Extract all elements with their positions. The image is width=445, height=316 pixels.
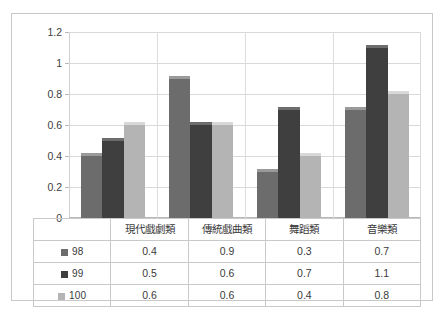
bar-top-face (300, 153, 321, 156)
data-table: 現代戲劇類傳統戲曲類舞蹈類音樂類980.40.90.30.7990.50.60.… (33, 218, 421, 307)
bar-top-face (212, 122, 233, 125)
data-cell-99-1: 0.5 (111, 263, 188, 285)
data-cell-98-2: 0.9 (188, 241, 265, 263)
category-header-4: 音樂類 (343, 219, 420, 241)
data-table-row: 990.50.60.71.1 (34, 263, 421, 285)
bar-group-inner (169, 32, 232, 218)
bar-top-face (345, 107, 366, 110)
data-table-container: 現代戲劇類傳統戲曲類舞蹈類音樂類980.40.90.30.7990.50.60.… (33, 218, 421, 307)
bar-top-face (102, 138, 123, 141)
bar-group-inner (81, 32, 144, 218)
bar-group-inner (345, 32, 408, 218)
bar-98-1[interactable] (81, 156, 102, 218)
category-header-label: 音樂類 (367, 223, 397, 235)
data-cell-99-2: 0.6 (188, 263, 265, 285)
data-cell-98-4: 0.7 (343, 241, 420, 263)
legend-item-98[interactable]: 98 (34, 241, 111, 263)
bar-top-face (169, 76, 190, 79)
bar-top-face (124, 122, 145, 125)
legend-series-label: 99 (72, 268, 84, 279)
category-header-2: 傳統戲曲類 (188, 219, 265, 241)
data-cell-98-1: 0.4 (111, 241, 188, 263)
data-cell-99-4: 1.1 (343, 263, 420, 285)
bar-top-face (81, 153, 102, 156)
y-axis-tick-label: 0.6 (47, 120, 62, 131)
bar-100-4[interactable] (388, 94, 409, 218)
data-table-header-row: 現代戲劇類傳統戲曲類舞蹈類音樂類 (34, 219, 421, 241)
category-header-1: 現代戲劇類 (111, 219, 188, 241)
category-header-3: 舞蹈類 (266, 219, 343, 241)
bars-layer (69, 32, 421, 218)
bar-group-1 (69, 32, 157, 218)
bar-99-4[interactable] (366, 48, 387, 219)
category-separator (157, 32, 158, 218)
bar-100-2[interactable] (212, 125, 233, 218)
bar-top-face (366, 45, 387, 48)
data-cell-100-4: 0.8 (343, 285, 420, 307)
data-cell-99-3: 0.7 (266, 263, 343, 285)
bar-98-3[interactable] (257, 172, 278, 219)
legend-swatch-icon (61, 249, 68, 256)
data-table-corner-cell (34, 219, 111, 241)
legend-series-label: 100 (69, 290, 86, 301)
data-table-row: 1000.60.60.40.8 (34, 285, 421, 307)
bar-99-3[interactable] (278, 110, 299, 219)
bar-group-inner (257, 32, 320, 218)
bar-top-face (278, 107, 299, 110)
y-axis-tick-label: 1 (56, 58, 62, 69)
bar-98-2[interactable] (169, 79, 190, 219)
bar-group-3 (245, 32, 333, 218)
bar-top-face (190, 122, 211, 125)
data-cell-100-1: 0.6 (111, 285, 188, 307)
bar-top-face (388, 91, 409, 94)
category-header-label: 舞蹈類 (289, 223, 319, 235)
legend-swatch-icon (58, 293, 65, 300)
bar-99-1[interactable] (102, 141, 123, 219)
legend-series-label: 98 (72, 246, 84, 257)
category-separator (245, 32, 246, 218)
data-table-row: 980.40.90.30.7 (34, 241, 421, 263)
data-cell-98-3: 0.3 (266, 241, 343, 263)
category-header-label: 傳統戲曲類 (202, 223, 252, 235)
y-axis-tick-label: 0.2 (47, 182, 62, 193)
bar-100-3[interactable] (300, 156, 321, 218)
data-cell-100-2: 0.6 (188, 285, 265, 307)
bar-group-4 (333, 32, 421, 218)
chart-frame: 1.210.80.60.40.20 現代戲劇類傳統戲曲類舞蹈類音樂類980.40… (11, 13, 433, 301)
plot-region: 1.210.80.60.40.20 (69, 32, 421, 218)
category-header-label: 現代戲劇類 (125, 223, 175, 235)
bar-98-4[interactable] (345, 110, 366, 219)
bar-top-face (257, 169, 278, 172)
legend-swatch-icon (61, 271, 68, 278)
category-separator (333, 32, 334, 218)
legend-item-99[interactable]: 99 (34, 263, 111, 285)
data-cell-100-3: 0.4 (266, 285, 343, 307)
y-axis-tick-label: 0.8 (47, 89, 62, 100)
y-axis-tick-label: 0.4 (47, 151, 62, 162)
bar-group-2 (157, 32, 245, 218)
bar-99-2[interactable] (190, 125, 211, 218)
bar-100-1[interactable] (124, 125, 145, 218)
y-axis-tick-label: 1.2 (47, 27, 62, 38)
legend-item-100[interactable]: 100 (34, 285, 111, 307)
